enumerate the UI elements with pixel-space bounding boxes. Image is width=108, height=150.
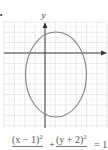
ellipse-equation: (x − 1)2 + (y + 2)2 = 1 xyxy=(0,133,108,150)
equation-plus: + xyxy=(49,139,55,150)
ellipse-curve xyxy=(26,32,87,117)
coordinate-plane: y xyxy=(0,0,108,150)
term-y-numerator: (y + 2) xyxy=(56,134,83,145)
equation-rhs: = 1 xyxy=(94,139,107,150)
equation-term-x: (x − 1)2 xyxy=(12,133,43,147)
ellipse-graph-figure: y (x − 1)2 + (y + 2)2 = 1 xyxy=(0,0,108,150)
term-y-exponent: 2 xyxy=(83,133,87,141)
term-x-exponent: 2 xyxy=(39,133,43,141)
x-axis-arrow-icon xyxy=(101,51,107,56)
equation-term-y: (y + 2)2 xyxy=(56,133,87,147)
bullet-dot xyxy=(0,14,2,16)
y-axis-arrow-icon xyxy=(43,22,48,28)
y-axis xyxy=(43,22,48,128)
term-x-numerator: (x − 1) xyxy=(12,134,39,145)
y-axis-label: y xyxy=(41,10,46,20)
